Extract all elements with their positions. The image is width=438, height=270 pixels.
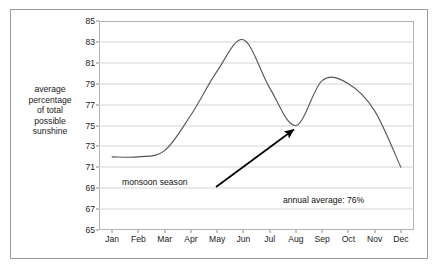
y-axis-title: average percentage of total possible sun… <box>14 84 86 137</box>
x-tick-mark <box>190 230 191 233</box>
y-tick-label: 85 <box>85 16 95 26</box>
y-tick-label: 67 <box>85 204 95 214</box>
y-tick-label: 69 <box>85 183 95 193</box>
x-tick-label-apr: Apr <box>184 234 197 244</box>
y-tick-label: 81 <box>85 58 95 68</box>
monsoon-season-annotation: monsoon season <box>122 177 187 187</box>
x-tick-label-jun: Jun <box>236 234 250 244</box>
x-tick-label-sep: Sep <box>314 234 329 244</box>
x-tick-label-may: May <box>209 234 225 244</box>
annual-average-annotation: annual average: 76% <box>283 195 364 205</box>
x-tick-label-jan: Jan <box>105 234 119 244</box>
x-tick-mark <box>112 230 113 233</box>
y-tick-label: 71 <box>85 162 95 172</box>
chart-figure: average percentage of total possible sun… <box>0 0 438 270</box>
x-tick-label-aug: Aug <box>288 234 303 244</box>
plot-wrapper: 6567697173757779818385 JanFebMarAprMayJu… <box>99 21 414 230</box>
x-tick-mark <box>322 230 323 233</box>
x-tick-label-mar: Mar <box>157 234 172 244</box>
monsoon-arrow <box>99 21 414 230</box>
y-tick-label: 83 <box>85 37 95 47</box>
x-tick-mark <box>374 230 375 233</box>
x-tick-mark <box>217 230 218 233</box>
y-tick-label: 65 <box>85 225 95 235</box>
x-tick-label-nov: Nov <box>367 234 382 244</box>
arrow-line <box>216 130 294 188</box>
x-tick-label-dec: Dec <box>393 234 408 244</box>
x-tick-label-oct: Oct <box>342 234 355 244</box>
y-tick-label: 73 <box>85 141 95 151</box>
x-tick-mark <box>243 230 244 233</box>
x-tick-label-feb: Feb <box>131 234 146 244</box>
x-tick-mark <box>348 230 349 233</box>
x-tick-mark <box>269 230 270 233</box>
x-tick-label-jul: Jul <box>264 234 275 244</box>
x-tick-mark <box>295 230 296 233</box>
y-tick-label: 77 <box>85 100 95 110</box>
y-tick-label: 75 <box>85 121 95 131</box>
x-tick-mark <box>164 230 165 233</box>
x-tick-mark <box>138 230 139 233</box>
x-tick-mark <box>400 230 401 233</box>
y-tick-label: 79 <box>85 79 95 89</box>
